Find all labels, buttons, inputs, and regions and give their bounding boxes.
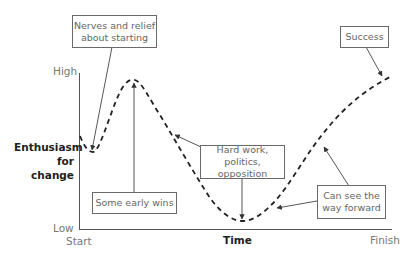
annotation-nerves-line1: Nerves and relief bbox=[74, 20, 155, 32]
annotation-success: Success bbox=[340, 26, 389, 48]
annotation-early-wins-text: Some early wins bbox=[95, 197, 173, 209]
x-axis-title: Time bbox=[223, 234, 252, 246]
change-curve-diagram: High Low Start Finish Time Enthusiasm fo… bbox=[0, 0, 417, 257]
y-axis-low-label: Low bbox=[53, 222, 74, 234]
y-axis-title-line2: for change bbox=[14, 154, 74, 182]
annotation-nerves-line2: about starting bbox=[81, 32, 148, 44]
way-forward-pointer-up bbox=[324, 147, 349, 186]
annotation-way-forward: Can see the way forward bbox=[317, 185, 386, 219]
y-axis-title-line1: Enthusiasm bbox=[14, 140, 74, 154]
nerves-pointer bbox=[92, 47, 112, 150]
x-axis-finish-label: Finish bbox=[370, 234, 400, 246]
annotation-success-text: Success bbox=[345, 31, 383, 43]
hard-work-pointer-left bbox=[175, 135, 201, 147]
annotation-hard-work-line1: Hard work, bbox=[217, 144, 269, 156]
annotation-way-forward-line1: Can see the bbox=[323, 190, 380, 202]
annotation-early-wins: Some early wins bbox=[92, 192, 177, 214]
annotation-way-forward-line2: way forward bbox=[322, 202, 381, 214]
y-axis-high-label: High bbox=[53, 65, 77, 77]
annotation-hard-work: Hard work, politics, opposition bbox=[200, 145, 285, 179]
x-axis-start-label: Start bbox=[66, 235, 92, 247]
success-pointer bbox=[366, 47, 382, 76]
annotation-hard-work-line2: politics, opposition bbox=[201, 156, 284, 180]
y-axis-title: Enthusiasm for change bbox=[14, 140, 74, 182]
way-forward-pointer-left bbox=[277, 201, 317, 208]
annotation-nerves: Nerves and relief about starting bbox=[72, 15, 157, 48]
